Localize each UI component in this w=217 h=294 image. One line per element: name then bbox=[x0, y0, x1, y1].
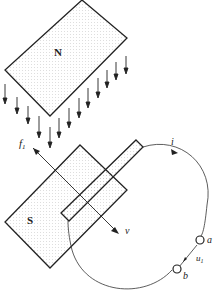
electromagnetic-induction-diagram: N S f1 v i a bbox=[0, 0, 217, 294]
south-magnet: S bbox=[5, 145, 127, 268]
terminal-b bbox=[173, 265, 181, 273]
north-label: N bbox=[54, 46, 62, 58]
velocity-label: v bbox=[125, 225, 130, 236]
current-label: i bbox=[171, 136, 174, 147]
north-magnet: N bbox=[5, 0, 127, 116]
force-label: f1 bbox=[19, 137, 26, 151]
velocity-arrow-head-icon bbox=[111, 227, 119, 234]
terminal-a-label: a bbox=[207, 234, 212, 245]
south-label: S bbox=[27, 214, 33, 226]
circuit-wire-upper bbox=[143, 144, 208, 237]
voltage-label: u1 bbox=[196, 253, 204, 264]
current-arrow-icon bbox=[171, 149, 178, 155]
circuit-wire-ab bbox=[179, 245, 197, 267]
terminal-b-label: b bbox=[183, 270, 188, 281]
terminal-a bbox=[196, 236, 204, 244]
